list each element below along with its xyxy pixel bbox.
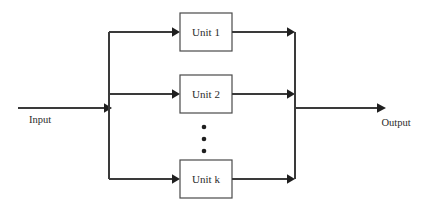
merge-arrowhead-unit-1-icon xyxy=(287,27,295,37)
unit-box-2-label: Unit 2 xyxy=(192,88,220,100)
ellipsis-dot-2 xyxy=(202,137,207,142)
unit-box-2[interactable]: Unit 2 xyxy=(180,75,232,113)
unit-box-k-label: Unit k xyxy=(192,173,220,185)
unit-boxes-group: Unit 1 Unit 2 Unit k xyxy=(180,13,232,198)
input-group: Input xyxy=(18,103,112,125)
output-label: Output xyxy=(381,117,410,128)
merge-arrowhead-unit-2-icon xyxy=(287,89,295,99)
diagram-svg: Input Unit 1 Unit 2 xyxy=(0,0,424,209)
unit-box-1-label: Unit 1 xyxy=(192,26,220,38)
block-diagram-canvas: Input Unit 1 Unit 2 xyxy=(0,0,424,209)
input-label: Input xyxy=(29,114,51,125)
unit-box-1[interactable]: Unit 1 xyxy=(180,13,232,51)
vertical-ellipsis-icon xyxy=(202,125,207,154)
unit-box-k[interactable]: Unit k xyxy=(180,160,232,198)
branch-arrowhead-unit-2-icon xyxy=(172,89,180,99)
ellipsis-dot-1 xyxy=(202,125,207,130)
merge-arrowhead-unit-k-icon xyxy=(287,174,295,184)
branch-arrowhead-unit-k-icon xyxy=(172,174,180,184)
ellipsis-dot-3 xyxy=(202,149,207,154)
output-arrowhead-icon xyxy=(377,103,386,113)
branch-arrowhead-unit-1-icon xyxy=(172,27,180,37)
input-bus-group xyxy=(109,27,180,184)
input-arrowhead-icon xyxy=(104,103,112,113)
output-bus-group xyxy=(232,27,295,184)
output-group: Output xyxy=(295,103,411,128)
